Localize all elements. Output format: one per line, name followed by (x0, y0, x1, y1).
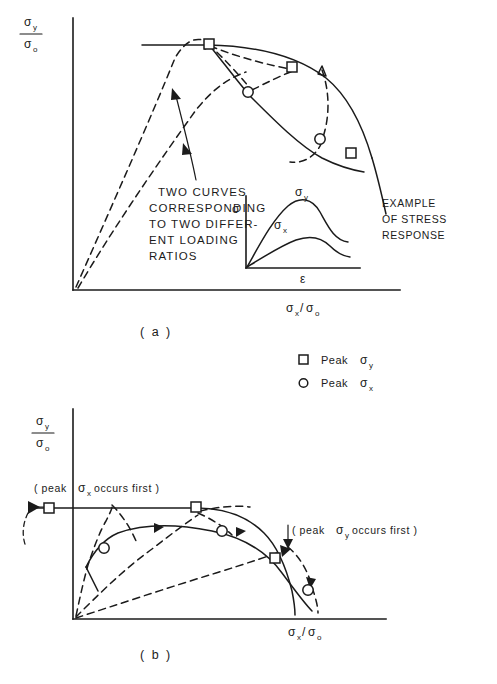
marker-peak-sigma-x (303, 585, 313, 595)
y-axis-numerator: σ (36, 414, 44, 428)
marker-peak-sigma-x (243, 87, 253, 97)
annotation-line-1: TWO CURVES (158, 186, 247, 198)
path-arrow-b1 (236, 527, 246, 537)
inset-label-sigma-y: σ (295, 185, 303, 199)
x-axis-sigma-o: σ (306, 301, 314, 315)
loading-path-b3 (76, 549, 288, 618)
legend-symbol-sigma-y-sub: y (369, 361, 373, 370)
marker-peak-sigma-y (270, 553, 280, 563)
inset-label-sigma-x-sub: x (283, 226, 287, 235)
inset-stress-response: σ σ y σ x ε EXAMPLE OF STRESS RESPONSE (232, 185, 447, 286)
inset-y-axis-label: σ (232, 202, 240, 216)
panel-a-annotation: TWO CURVES CORRESPONDING TO TWO DIFFER- … (149, 186, 266, 262)
x-axis-sigma-o-sub: o (315, 309, 320, 318)
panel-a: σ y σ o TWO CURVES CORRESPONDING TO TWO … (0, 0, 497, 345)
panel-a-y-axis-label: σ y σ o (20, 15, 42, 54)
loading-path-2-cont (252, 70, 296, 90)
marker-peak-sigma-y (346, 148, 356, 158)
legend-circle-marker (299, 379, 308, 388)
marker-peak-sigma-y (287, 62, 297, 72)
y-axis-numerator-sub: y (33, 23, 37, 32)
panel-b: σ y σ o ( peak σ x occurs first ) ( peak… (0, 401, 497, 684)
loading-path-b2 (76, 515, 198, 617)
envelope-upper (36, 508, 295, 615)
x-axis-sigma-sub: x (295, 309, 299, 318)
legend-square-marker (299, 355, 308, 364)
loading-path-3-cont (290, 142, 322, 162)
figure-root: σ y σ o TWO CURVES CORRESPONDING TO TWO … (0, 0, 497, 684)
marker-peak-sigma-y (204, 39, 214, 49)
panel-b-annotation-right: ( peak σ y occurs first ) (292, 523, 418, 540)
loading-path-b1-cont (112, 505, 136, 541)
legend: Peak σ y Peak σ x (0, 345, 497, 401)
x-axis-sigma-o-sub: o (317, 633, 322, 642)
annotation-arrow-upper (171, 88, 181, 100)
x-axis-sigma-o: σ (308, 625, 316, 639)
y-axis-numerator: σ (24, 15, 32, 29)
annotation-line-4: ENT LOADING (149, 234, 239, 246)
y-axis-denominator-sub: o (45, 444, 50, 453)
annotation-left-suffix: occurs first ) (94, 482, 160, 494)
inset-caption-line-1: EXAMPLE (382, 197, 436, 209)
inset-curve-sigma-x (247, 238, 350, 267)
x-axis-sigma: σ (288, 625, 296, 639)
legend-symbol-sigma-x: σ (360, 376, 368, 390)
inset-caption-line-3: RESPONSE (382, 229, 445, 241)
inset-label-sigma-y-sub: y (304, 193, 308, 202)
left-dashed-stub (23, 513, 28, 547)
legend-item-peak-sigma-x: Peak σ x (299, 376, 373, 393)
legend-label-peak-x: Peak (321, 377, 348, 389)
annotation-line-2: CORRESPONDING (149, 202, 266, 214)
annotation-right-sub: y (345, 531, 349, 540)
panel-b-annotation-left: ( peak σ x occurs first ) (34, 481, 160, 498)
inset-x-axis-label: ε (300, 272, 306, 286)
marker-peak-sigma-x (217, 526, 227, 536)
legend-label-peak-y: Peak (321, 354, 348, 366)
marker-peak-sigma-x (315, 134, 325, 144)
y-axis-denominator: σ (24, 37, 32, 51)
annotation-leader (176, 96, 196, 180)
y-axis-denominator: σ (36, 436, 44, 450)
x-axis-slash: / (300, 301, 304, 315)
annotation-right-suffix: occurs first ) (352, 524, 418, 536)
x-axis-sigma: σ (286, 301, 294, 315)
legend-symbol-sigma-y: σ (360, 353, 368, 367)
annotation-arrow-lower (182, 143, 192, 155)
envelope-lower (86, 526, 312, 611)
annotation-left-symbol: σ (78, 481, 86, 495)
panel-a-label: ( a ) (140, 325, 172, 339)
marker-peak-sigma-x (99, 543, 109, 553)
marker-peak-sigma-y (44, 503, 54, 513)
panel-a-x-axis-label: σ x / σ o (286, 301, 320, 318)
inset-label-sigma-x: σ (274, 218, 282, 232)
x-axis-sigma-sub: x (297, 633, 301, 642)
annotation-right-prefix: ( peak (292, 524, 325, 536)
annotation-left-sub: x (87, 489, 91, 498)
annotation-right-symbol: σ (336, 523, 344, 537)
legend-item-peak-sigma-y: Peak σ y (299, 353, 373, 370)
panel-b-label: ( b ) (140, 648, 172, 662)
annotation-line-3: TO TWO DIFFER- (149, 218, 259, 230)
annotation-left-prefix: ( peak (34, 482, 67, 494)
envelope-lower-tail (86, 567, 98, 591)
panel-b-x-axis-label: σ x / σ o (288, 625, 322, 642)
panel-b-y-axis-label: σ y σ o (32, 414, 54, 453)
y-axis-numerator-sub: y (45, 422, 49, 431)
annotation-line-5: RATIOS (149, 250, 198, 262)
marker-peak-sigma-y (191, 502, 201, 512)
inset-caption-line-2: OF STRESS (382, 213, 447, 225)
x-axis-slash: / (302, 625, 306, 639)
path-arrow-b2 (154, 523, 164, 533)
y-axis-denominator-sub: o (33, 45, 38, 54)
legend-symbol-sigma-x-sub: x (369, 384, 373, 393)
loading-path-3 (322, 70, 328, 140)
